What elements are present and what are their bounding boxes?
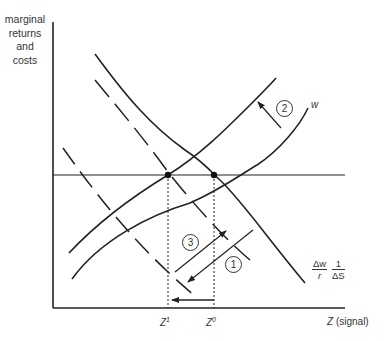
marker-1: 1 <box>225 256 242 273</box>
w-curve-original <box>72 108 308 279</box>
x-axis-var: Z <box>327 316 333 327</box>
tick-z1-sup: 1 <box>166 316 170 323</box>
y-axis-label-line-2: returns <box>2 27 48 41</box>
marker-2: 2 <box>276 100 293 117</box>
fraction-denominator-right: ΔS <box>332 270 345 281</box>
cost-curve-label-left-fraction: Δw r <box>312 258 327 281</box>
equilibrium-point-0 <box>211 172 217 178</box>
w-curve-label: w <box>311 99 318 110</box>
equilibrium-point-1 <box>165 172 171 178</box>
x-axis-label: Z (signal) <box>327 316 369 327</box>
y-axis-label-line-3: and <box>2 40 48 54</box>
x-axis-unit: (signal) <box>336 316 369 327</box>
y-axis-label-line-4: costs <box>2 54 48 68</box>
tick-z1: Z1 <box>160 316 170 328</box>
cost-curve-label-right-fraction: 1 ΔS <box>332 258 345 281</box>
tick-z0-sup: 0 <box>212 316 216 323</box>
y-axis-label: marginal returns and costs <box>2 13 48 67</box>
w-curve-shifted <box>69 78 276 253</box>
tick-z0: Z0 <box>206 316 216 328</box>
y-axis-label-line-1: marginal <box>2 13 48 27</box>
fraction-numerator-right: 1 <box>332 258 345 270</box>
shifted-cost-curve-dashed-1 <box>95 80 250 260</box>
diagram-canvas: marginal returns and costs Z (signal) Z1… <box>0 0 391 341</box>
marginal-cost-curve <box>95 54 305 283</box>
fraction-numerator-left: Δw <box>312 258 327 270</box>
diagram-svg <box>0 0 391 341</box>
fraction-denominator-left: r <box>312 270 327 281</box>
marker-3: 3 <box>182 234 199 251</box>
